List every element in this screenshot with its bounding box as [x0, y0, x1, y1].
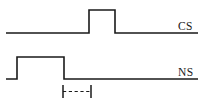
timing-diagram-canvas: CS NS	[0, 0, 203, 107]
cs-trace-line	[6, 10, 198, 33]
timing-diagram-figure: CS NS	[0, 0, 203, 107]
ns-label: NS	[178, 66, 194, 78]
cs-label: CS	[178, 20, 193, 32]
ns-trace-line	[6, 57, 198, 79]
